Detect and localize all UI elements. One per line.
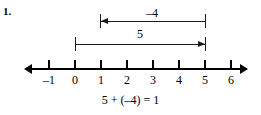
jump-arrowhead-left-negative-four	[101, 18, 108, 24]
jump-end-cap-negative-four	[205, 14, 206, 28]
worksheet-problem: 1. –4 5 –1 0 1 2 3 4 5 6 5	[0, 0, 261, 115]
problem-number: 1.	[3, 4, 11, 18]
jump-label-five: 5	[125, 28, 155, 41]
equation: 5 + (–4) = 1	[0, 93, 261, 108]
axis-label: 6	[220, 73, 242, 87]
axis-label: 4	[168, 73, 190, 87]
axis-label: 1	[90, 73, 112, 87]
jump-label-negative-four: –4	[132, 7, 172, 20]
axis-label: 0	[64, 73, 86, 87]
jump-line-negative-four	[100, 21, 205, 22]
number-line-axis	[31, 68, 247, 70]
axis-tick	[126, 60, 128, 70]
axis-tick	[204, 60, 206, 70]
axis-label: 2	[116, 73, 138, 87]
axis-tick	[48, 60, 50, 70]
axis-label: 3	[142, 73, 164, 87]
jump-end-cap-five	[205, 37, 206, 51]
jump-arrowhead-right-five	[198, 41, 205, 47]
axis-tick	[230, 60, 232, 70]
axis-tick	[178, 60, 180, 70]
axis-label: –1	[38, 73, 60, 87]
axis-tick	[74, 60, 76, 70]
axis-tick	[152, 60, 154, 70]
axis-arrow-left-icon	[24, 64, 32, 74]
jump-line-five	[75, 44, 205, 45]
axis-label: 5	[194, 73, 216, 87]
axis-tick	[100, 60, 102, 70]
